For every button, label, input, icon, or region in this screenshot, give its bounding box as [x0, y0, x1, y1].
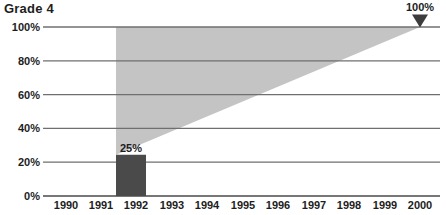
y-axis-ticks: 100% 80% 60% 40% 20% 0%	[0, 0, 40, 215]
target-marker-triangle-icon	[412, 15, 428, 28]
x-tick-label: 1995	[231, 199, 255, 211]
chart-plot-area	[0, 0, 446, 215]
x-tick-label: 1994	[195, 199, 219, 211]
y-tick-label: 40%	[18, 122, 40, 134]
x-tick-label: 1993	[160, 199, 184, 211]
y-tick-label: 20%	[18, 156, 40, 168]
x-tick-label: 1992	[124, 199, 148, 211]
y-tick-label: 80%	[18, 55, 40, 67]
x-tick-label: 1998	[337, 199, 361, 211]
y-tick-label: 60%	[18, 89, 40, 101]
x-tick-label: 1997	[302, 199, 326, 211]
target-value-label: 100%	[406, 1, 434, 13]
projection-band	[116, 27, 420, 155]
x-tick-label: 1996	[266, 199, 290, 211]
x-tick-label: 2000	[408, 199, 432, 211]
chart-container: Grade 4 100% 80% 60% 40% 20% 0% 1990 199…	[0, 0, 446, 215]
bar-1992	[116, 155, 146, 196]
y-tick-label: 100%	[12, 21, 40, 33]
x-tick-label: 1991	[89, 199, 113, 211]
bar-value-label: 25%	[120, 142, 142, 154]
x-tick-label: 1990	[54, 199, 78, 211]
x-tick-label: 1999	[373, 199, 397, 211]
x-axis-ticks: 1990 1991 1992 1993 1994 1995 1996 1997 …	[0, 199, 446, 215]
